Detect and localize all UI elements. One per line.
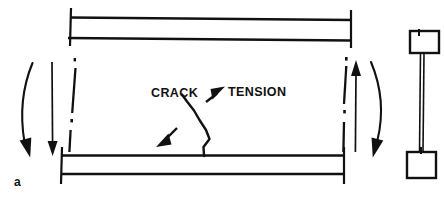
left-moment-arrow-head (20, 138, 32, 158)
left-moment-arc (22, 63, 32, 142)
top-flange-group (68, 8, 352, 48)
top-flange-left-endcap (70, 8, 71, 46)
cross-section-web-left-face (420, 53, 421, 152)
right-shear-arrow-up (351, 60, 361, 152)
right-shear-arrow-shaft (355, 72, 356, 152)
section-line-right-dot-mid (343, 110, 346, 113)
top-flange-lower-line (68, 38, 351, 41)
section-line-left (69, 58, 76, 152)
section-line-right-dash (344, 66, 346, 104)
crack-polyline (182, 95, 210, 157)
bottom-flange-left-endcap (61, 147, 62, 184)
right-moment-arrow-head (372, 138, 384, 158)
cross-section-web-right-face (423, 53, 424, 152)
figure-label: a (14, 175, 21, 189)
left-moment-curved-arrow (20, 63, 33, 158)
right-moment-arc (371, 62, 381, 140)
tension-label: TENSION (228, 85, 286, 99)
cross-section-group (407, 29, 439, 178)
right-moment-curved-arrow (371, 62, 383, 158)
section-line-left-dot-top (74, 58, 76, 61)
beam-crack-diagram: CRACK TENSION a (0, 0, 445, 202)
right-shear-arrow-head (351, 60, 361, 76)
crack-pointer-arrow (156, 128, 177, 147)
cross-section-top-flange (410, 31, 439, 53)
cross-section-bottom-flange (407, 152, 436, 178)
section-line-right-dot-top (345, 57, 348, 61)
section-line-left-dash (72, 68, 75, 113)
top-flange-upper-line (70, 18, 352, 21)
tension-arrow-head (211, 87, 226, 100)
section-line-left-dot-mid (70, 119, 73, 122)
tension-arrow (206, 87, 225, 103)
left-shear-arrow-head (48, 141, 58, 156)
crack-label: CRACK (151, 86, 198, 100)
crack-line (182, 95, 210, 157)
section-line-left-dash-lower (69, 130, 70, 152)
section-line-right-dash-lower (343, 122, 344, 152)
figure-container: CRACK TENSION a (0, 0, 445, 202)
left-shear-arrow-down (48, 62, 58, 156)
left-shear-arrow-shaft (52, 62, 53, 146)
section-line-right (343, 57, 347, 152)
